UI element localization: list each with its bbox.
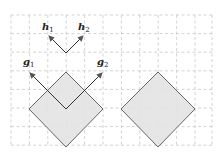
h1-arrow: [49, 36, 66, 53]
h2-arrow: [66, 36, 83, 53]
grid: [11, 15, 212, 146]
diagram-canvas: h1 h2 g1 g2: [0, 0, 220, 155]
label-h2: h2: [78, 21, 90, 34]
right-diamond: [121, 72, 195, 147]
label-g1: g1: [23, 56, 34, 69]
